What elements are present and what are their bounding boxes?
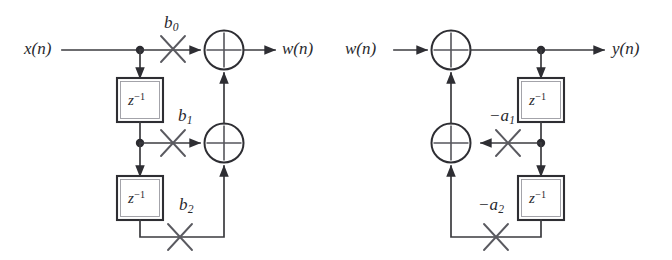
label-delay-ff-2: z−1	[128, 190, 145, 206]
adder-ff-mid	[205, 124, 244, 163]
label-x-of-n: x(n)	[24, 40, 51, 57]
signal-flow-diagram	[0, 0, 672, 260]
b2-base: b	[179, 195, 188, 214]
a2-subscript: 2	[498, 203, 504, 216]
z-base: z	[529, 190, 535, 206]
z-exponent: −1	[535, 189, 546, 200]
z-exponent: −1	[535, 91, 546, 102]
label-coefficient-a1: −a1	[489, 107, 515, 127]
label-y-of-n: y(n)	[612, 40, 639, 57]
z-base: z	[529, 92, 535, 108]
figure-canvas: x(n) w(n) b0 b1 b2 z−1 z−1 w(n) y(n) −a1…	[0, 0, 672, 260]
label-w-of-n-input: w(n)	[345, 40, 376, 57]
adder-ff-top	[205, 31, 244, 70]
b1-subscript: 1	[187, 114, 193, 127]
a1-base: −a	[489, 106, 509, 125]
z-base: z	[128, 92, 134, 108]
b1-base: b	[178, 106, 187, 125]
multiplier-b0	[161, 36, 185, 62]
a1-subscript: 1	[509, 114, 515, 127]
z-exponent: −1	[134, 189, 145, 200]
label-coefficient-b1: b1	[178, 107, 193, 127]
label-w-of-n-output: w(n)	[282, 40, 313, 57]
z-exponent: −1	[134, 91, 145, 102]
b0-base: b	[164, 13, 173, 32]
adder-fb-mid	[432, 124, 471, 163]
label-delay-ff-1: z−1	[128, 92, 145, 108]
a2-base: −a	[478, 195, 498, 214]
label-delay-fb-1: z−1	[529, 92, 546, 108]
b0-subscript: 0	[173, 21, 179, 34]
label-delay-fb-2: z−1	[529, 190, 546, 206]
adder-fb-top	[432, 31, 471, 70]
z-base: z	[128, 190, 134, 206]
label-coefficient-a2: −a2	[478, 196, 504, 216]
label-coefficient-b0: b0	[164, 14, 179, 34]
b2-subscript: 2	[188, 203, 194, 216]
label-coefficient-b2: b2	[179, 196, 194, 216]
